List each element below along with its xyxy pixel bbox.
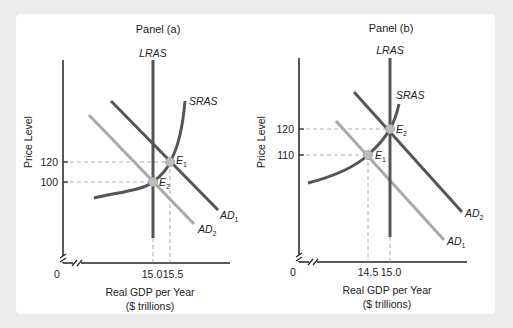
- panel-a-sras-curve: [94, 101, 185, 198]
- panel-b-xtick-15-0: 15.0: [381, 266, 402, 278]
- panel-a-sras-label: SRAS: [189, 95, 218, 107]
- panel-a-ad1-label: AD1: [219, 209, 239, 223]
- panel-b-origin: 0: [290, 266, 296, 278]
- panel-b-ad2-label: AD2: [464, 207, 484, 221]
- panel-b-x-break-icon: [308, 259, 318, 265]
- panel-b-ytick-120: 120: [276, 123, 294, 135]
- panel-a-y-label: Price Level: [22, 116, 34, 168]
- panel-a-point-e2: [149, 178, 158, 187]
- panel-a-x-label: Real GDP per Year: [105, 286, 195, 298]
- panel-a-origin: 0: [54, 268, 60, 280]
- panel-a-x-label-units: ($ trillions): [126, 300, 174, 312]
- panel-b-sras-curve: [308, 104, 399, 183]
- panel-a-xtick-15-5: 15.5: [163, 268, 184, 280]
- panel-b-x-label: Real GDP per Year: [342, 284, 432, 296]
- panel-b-e2-label: E2: [396, 123, 407, 137]
- panel-b-ad1-label: AD1: [446, 235, 466, 249]
- panel-b-xtick-14-5: 14.5: [358, 266, 379, 278]
- panel-b-point-e1: [364, 151, 373, 160]
- panel-b: Panel (b) 120 110 0 14.5 15.0 Price Leve…: [255, 22, 484, 310]
- panel-a-title: Panel (a): [136, 23, 181, 35]
- panel-a-xtick-15-0: 15.0: [142, 268, 163, 280]
- panel-b-y-label: Price Level: [255, 116, 267, 168]
- panel-a-e2-label: E2: [159, 176, 170, 190]
- panel-a-ytick-120: 120: [40, 156, 58, 168]
- panel-b-sras-label: SRAS: [396, 89, 425, 101]
- panel-b-x-label-units: ($ trillions): [363, 298, 411, 310]
- panel-a-x-break-icon: [72, 260, 82, 266]
- panel-b-title: Panel (b): [369, 22, 414, 34]
- panel-a-ytick-100: 100: [40, 176, 58, 188]
- panel-b-lras-label: LRAS: [376, 44, 403, 56]
- panel-a-point-e1: [166, 158, 175, 167]
- panel-b-e1-label: E1: [375, 149, 386, 163]
- panel-b-ytick-110: 110: [277, 149, 294, 161]
- panel-b-point-e2: [386, 125, 395, 134]
- panel-a-ad2-label: AD2: [197, 223, 217, 237]
- panel-a-lras-label: LRAS: [139, 47, 166, 59]
- ad-as-figure: Panel (a) 120 100 0 15.0 15.5 Price Leve…: [0, 0, 513, 328]
- panel-a: Panel (a) 120 100 0 15.0 15.5 Price Leve…: [22, 23, 239, 312]
- panel-a-e1-label: E1: [176, 154, 187, 168]
